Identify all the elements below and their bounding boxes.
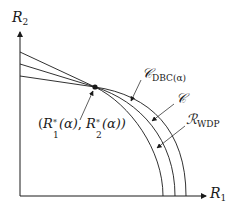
x-axis-subscript: 1 [221,193,227,203]
separator: , [78,116,86,131]
r-wdp-symbol: ℛ [186,111,197,127]
x-axis-label: R1 [210,186,226,203]
diagram-canvas [0,0,238,214]
c-label-arrow [152,104,174,121]
rate-region-diagram: R2 R1 (R*1(α), R*2(α)) 𝒞DBC(α) 𝒞 ℛWDP [0,0,238,214]
r2-star: * [96,119,100,127]
x-axis-symbol: R [210,185,221,201]
r2-subscript: 2 [96,131,102,140]
r-wdp-label: ℛWDP [186,112,220,129]
r1-symbol: R [43,116,53,131]
c-symbol: 𝒞 [176,90,186,106]
r-wdp-subscript: WDP [197,119,220,129]
y-axis-label: R2 [12,10,28,27]
c-label: 𝒞 [176,91,186,105]
c-dbc-alpha-label: 𝒞DBC(α) [142,66,186,83]
c-dbc-label-arrow [131,80,141,101]
r-wdp-label-arrow [157,126,185,148]
operating-point-label: (R*1(α), R*2(α)) [38,117,126,130]
operating-point [92,84,97,89]
c-dbc-subscript: DBC(α) [152,73,186,83]
r2-symbol: R [86,116,96,131]
r1-star: * [53,119,57,127]
c-dbc-symbol: 𝒞 [142,65,152,81]
alpha-2: (α)) [102,116,126,131]
y-axis-subscript: 2 [23,17,29,27]
y-axis-symbol: R [12,9,23,25]
alpha-1: (α) [59,116,78,131]
r1-subscript: 1 [53,131,59,140]
